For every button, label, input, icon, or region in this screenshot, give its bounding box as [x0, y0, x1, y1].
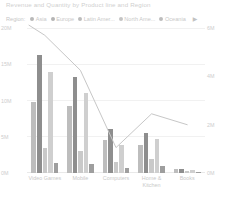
legend-item-label: Latin Amer...: [84, 16, 115, 22]
legend-swatch: [159, 17, 163, 21]
legend: Region: Asia Europe Latin Amer... North …: [6, 13, 234, 24]
legend-swatch: [30, 17, 34, 21]
y-tick-label-right: 0M: [207, 170, 215, 176]
y-tick-label-left: 15M: [1, 61, 12, 67]
plot-area: [27, 28, 205, 173]
x-tick-label: Video Games: [27, 175, 63, 201]
y-tick-label-left: 5M: [1, 134, 9, 140]
legend-swatch: [78, 17, 82, 21]
legend-title: Region:: [6, 16, 25, 22]
legend-item-asia[interactable]: Asia: [30, 16, 46, 22]
legend-swatch: [119, 17, 123, 21]
y-axis-right: 0M2M4M6M: [207, 28, 234, 173]
chevron-right-icon[interactable]: ▶: [193, 16, 198, 22]
y-tick-label-right: 2M: [207, 122, 215, 128]
legend-item-north-america[interactable]: North Ame...: [119, 16, 156, 22]
legend-swatch: [51, 17, 55, 21]
quantity-line-overlay: [27, 28, 205, 173]
legend-item-label: Oceania: [165, 16, 186, 22]
x-tick-label: Mobile: [63, 175, 99, 201]
legend-item-label: Asia: [36, 16, 47, 22]
y-axis-left: 0M5M10M15M20M: [1, 28, 25, 173]
y-tick-label-left: 0M: [1, 170, 9, 176]
x-tick-label: Books: [169, 175, 205, 201]
chart-card: Revenue and Quantity by Product line and…: [0, 0, 236, 210]
legend-item-latin-america[interactable]: Latin Amer...: [78, 16, 115, 22]
page-title: Revenue and Quantity by Product line and…: [6, 1, 151, 9]
legend-item-europe[interactable]: Europe: [51, 16, 75, 22]
x-axis-labels: Video GamesMobileComputersHome & Kitchen…: [27, 175, 205, 201]
x-tick-label: Home & Kitchen: [134, 175, 170, 201]
y-tick-label-right: 4M: [207, 73, 215, 79]
legend-item-oceania[interactable]: Oceania: [159, 16, 185, 22]
y-tick-label-left: 20M: [1, 25, 12, 31]
legend-item-label: Europe: [56, 16, 74, 22]
x-tick-label: Computers: [98, 175, 134, 201]
y-tick-label-left: 10M: [1, 98, 12, 104]
legend-item-label: North Ame...: [124, 16, 155, 22]
y-tick-label-right: 6M: [207, 25, 215, 31]
